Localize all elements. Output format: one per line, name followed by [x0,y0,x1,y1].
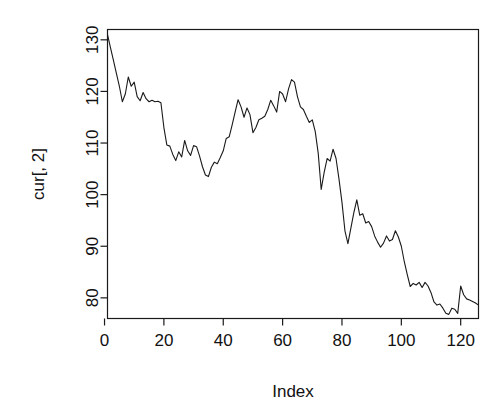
figure-background [0,0,496,419]
x-tick-label: 20 [154,331,173,350]
y-tick-label: 120 [83,77,102,105]
x-axis-title: Index [272,382,314,401]
y-tick-label: 90 [83,237,102,256]
x-tick-label: 120 [447,331,475,350]
y-tick-label: 100 [83,180,102,208]
r-plot-figure: 8090100110120130 020406080100120 cur[, 2… [0,0,496,419]
x-tick-label: 60 [273,331,292,350]
x-tick-label: 80 [333,331,352,350]
y-tick-label: 80 [83,288,102,307]
y-tick-label: 110 [83,129,102,156]
y-tick-label: 130 [83,26,102,54]
y-axis-title: cur[, 2] [29,148,48,200]
plot-canvas: 8090100110120130 020406080100120 cur[, 2… [0,0,496,419]
x-tick-label: 40 [214,331,233,350]
x-tick-label: 100 [387,331,415,350]
x-tick-label: 0 [100,331,109,350]
